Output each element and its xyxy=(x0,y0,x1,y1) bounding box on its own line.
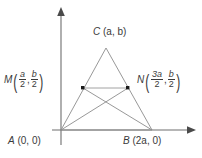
label-B-letter: B xyxy=(123,135,130,146)
label-N-open-paren: ( xyxy=(146,72,150,92)
point-marker-N xyxy=(126,86,129,89)
label-N-coords: 3a2,b2 xyxy=(151,70,175,90)
label-B-coords: (2a, 0) xyxy=(132,135,161,146)
x-axis-arrowhead-icon xyxy=(187,126,196,134)
label-M-fraction-x-denominator: 2 xyxy=(19,80,26,89)
label-N-letter: N xyxy=(137,74,144,85)
label-point-N: N(3a2,b2) xyxy=(137,70,181,92)
label-point-B: B (2a, 0) xyxy=(123,136,161,146)
label-A-coords: (0, 0) xyxy=(17,135,40,146)
label-M-fraction-y: b2 xyxy=(31,70,38,90)
label-M-fraction-x: a2 xyxy=(19,70,26,90)
label-N-fraction-y: b2 xyxy=(168,70,175,90)
geometry-figure: C (a, b) M(a2,b2) N(3a2,b2) A (0, 0) B (… xyxy=(0,0,202,158)
label-point-A: A (0, 0) xyxy=(8,136,41,146)
label-M-coords: a2,b2 xyxy=(19,70,38,90)
label-A-letter: A xyxy=(8,135,15,146)
label-M-letter: M xyxy=(4,74,12,85)
label-N-fraction-x: 3a2 xyxy=(151,70,163,90)
label-point-C: C (a, b) xyxy=(93,27,126,37)
label-N-fraction-x-denominator: 2 xyxy=(151,80,163,89)
point-marker-M xyxy=(81,86,84,89)
y-axis-arrowhead-icon xyxy=(57,7,65,16)
label-M-close-paren: ) xyxy=(39,72,43,92)
label-M-fraction-y-denominator: 2 xyxy=(31,80,38,89)
label-M-open-paren: ( xyxy=(14,72,18,92)
label-point-M: M(a2,b2) xyxy=(4,70,45,92)
label-N-close-paren: ) xyxy=(176,72,180,92)
label-N-fraction-y-denominator: 2 xyxy=(168,80,175,89)
label-C-coords: (a, b) xyxy=(103,26,126,37)
